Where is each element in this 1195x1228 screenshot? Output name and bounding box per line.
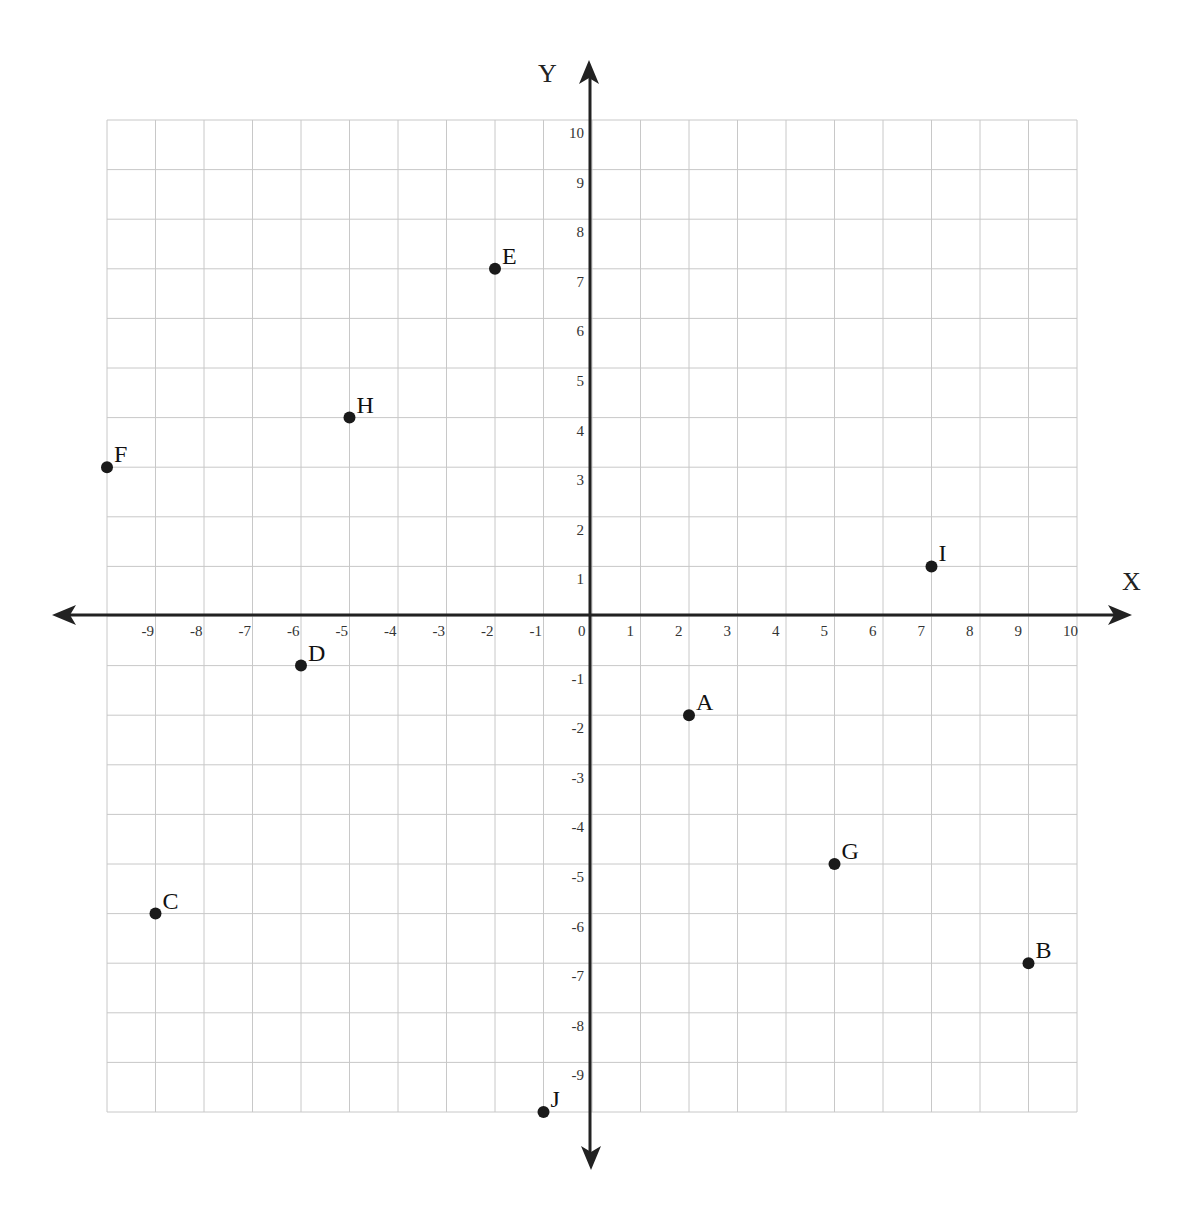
point-marker-icon (489, 263, 501, 275)
point-b: B (1023, 937, 1052, 969)
y-tick-label: -4 (572, 819, 585, 835)
point-label: I (939, 540, 947, 566)
coordinate-plane: X Y -9-8-7-6-5-4-3-2-1012345678910109876… (0, 0, 1195, 1228)
point-label: D (308, 640, 325, 666)
y-tick-label: -1 (572, 671, 585, 687)
point-label: C (163, 888, 179, 914)
axes: X Y (52, 59, 1141, 1170)
x-tick-label: 1 (627, 623, 635, 639)
y-tick-label: -2 (572, 720, 585, 736)
point-h: H (344, 392, 374, 424)
point-label: F (114, 441, 127, 467)
point-marker-icon (683, 709, 695, 721)
point-label: A (696, 689, 714, 715)
point-marker-icon (295, 660, 307, 672)
y-tick-label: -8 (572, 1018, 585, 1034)
point-marker-icon (538, 1106, 550, 1118)
x-tick-label: -7 (239, 623, 252, 639)
y-tick-label: 8 (577, 224, 585, 240)
y-tick-label: 3 (577, 472, 585, 488)
point-a: A (683, 689, 714, 721)
x-tick-label: 7 (918, 623, 926, 639)
x-tick-label: 5 (821, 623, 829, 639)
x-tick-label: 8 (966, 623, 974, 639)
x-tick-label: -4 (384, 623, 397, 639)
point-i: I (926, 540, 947, 572)
x-tick-label: -9 (142, 623, 155, 639)
point-g: G (829, 838, 859, 870)
x-tick-label: 10 (1063, 623, 1078, 639)
point-label: G (842, 838, 859, 864)
x-tick-label: 6 (869, 623, 877, 639)
y-tick-label: -9 (572, 1067, 585, 1083)
y-tick-label: -6 (572, 919, 585, 935)
point-e: E (489, 243, 517, 275)
point-j: J (538, 1086, 560, 1118)
point-marker-icon (344, 412, 356, 424)
x-tick-label: 0 (578, 623, 586, 639)
x-tick-label: -8 (190, 623, 203, 639)
point-label: B (1036, 937, 1052, 963)
y-tick-label: -7 (572, 968, 585, 984)
y-tick-label: 10 (569, 125, 584, 141)
x-axis-label: X (1122, 567, 1141, 596)
point-label: H (357, 392, 374, 418)
y-tick-label: 2 (577, 522, 585, 538)
x-tick-label: -6 (287, 623, 300, 639)
y-tick-label: -3 (572, 770, 585, 786)
point-label: J (551, 1086, 560, 1112)
point-marker-icon (1023, 957, 1035, 969)
y-axis-label: Y (538, 59, 557, 88)
point-f: F (101, 441, 127, 473)
point-marker-icon (926, 560, 938, 572)
x-tick-label: 9 (1015, 623, 1023, 639)
x-tick-label: 3 (724, 623, 732, 639)
x-tick-label: -3 (433, 623, 446, 639)
point-d: D (295, 640, 325, 672)
point-c: C (150, 888, 179, 920)
y-tick-label: 4 (577, 423, 585, 439)
x-tick-label: -1 (530, 623, 543, 639)
point-marker-icon (150, 908, 162, 920)
point-label: E (502, 243, 517, 269)
y-tick-label: -5 (572, 869, 585, 885)
x-tick-label: -5 (336, 623, 349, 639)
y-tick-label: 5 (577, 373, 585, 389)
x-tick-label: -2 (481, 623, 494, 639)
x-tick-label: 2 (675, 623, 683, 639)
point-marker-icon (829, 858, 841, 870)
y-tick-label: 1 (577, 571, 585, 587)
y-tick-label: 7 (577, 274, 585, 290)
x-tick-label: 4 (772, 623, 780, 639)
y-tick-label: 6 (577, 323, 585, 339)
point-marker-icon (101, 461, 113, 473)
y-tick-label: 9 (577, 175, 585, 191)
